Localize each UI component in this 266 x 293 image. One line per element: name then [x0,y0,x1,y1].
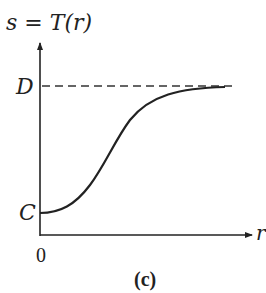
transformation-function-diagram: s = T(r) D C 0 r (c) [0,0,266,293]
caption: (c) [134,268,156,291]
upper-level-label: D [15,74,34,99]
x-axis-label: r [256,221,266,245]
sigmoid-curve [40,87,225,213]
lower-level-label: C [19,200,36,225]
origin-label: 0 [36,244,46,266]
function-label: s = T(r) [6,10,92,35]
